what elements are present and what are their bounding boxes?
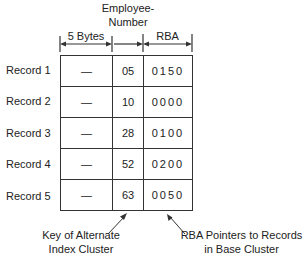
annotation-rba-pointers: RBA Pointers to Records in Base Cluster [176,228,307,256]
table-row: — 52 0200 [61,149,193,180]
annotation-alternate-index-key: Key of Alternate Index Cluster [26,228,136,256]
employee-number-cell: 28 [113,118,144,149]
employee-number-cell: 52 [113,149,144,180]
row-label-1: Record 1 [6,64,56,76]
annotation-right-line2: in Base Cluster [176,242,307,256]
employee-number-cell: 10 [113,87,144,118]
table-row: — 10 0000 [61,87,193,118]
rba-cell: 0100 [144,118,193,149]
alternate-index-record-table: — 05 0150 — 10 0000 — 28 0100 — 52 0200 … [60,55,193,211]
key-prefix-cell: — [61,118,113,149]
employee-number-cell: 05 [113,56,144,87]
key-prefix-cell: — [61,56,113,87]
rba-cell: 0000 [144,87,193,118]
row-label-4: Record 4 [6,158,56,170]
row-label-2: Record 2 [6,95,56,107]
row-label-3: Record 3 [6,127,56,139]
dimension-arrows [0,0,307,60]
annotation-right-line1: RBA Pointers to Records [176,228,307,242]
table-row: — 05 0150 [61,56,193,87]
table-row: — 28 0100 [61,118,193,149]
key-prefix-cell: — [61,149,113,180]
rba-cell: 0150 [144,56,193,87]
annotation-left-line1: Key of Alternate [26,228,136,242]
rba-cell: 0200 [144,149,193,180]
annotation-left-line2: Index Cluster [26,242,136,256]
key-prefix-cell: — [61,87,113,118]
